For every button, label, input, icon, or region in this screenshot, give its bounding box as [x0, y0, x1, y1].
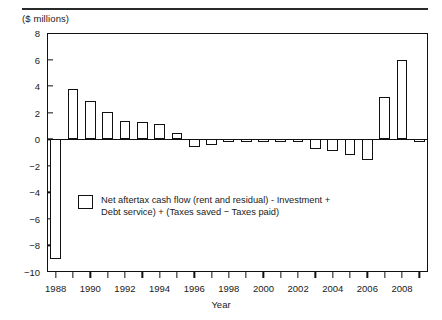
- x-tick-mark: [384, 272, 385, 278]
- x-tick-mark: [280, 272, 281, 278]
- legend-swatch-icon: [78, 195, 93, 209]
- x-tick-label: 1996: [184, 283, 205, 294]
- x-axis-title: Year: [0, 299, 442, 310]
- y-tick-label: −4: [14, 187, 40, 198]
- x-tick-mark: [194, 272, 195, 278]
- bar: [223, 139, 234, 141]
- bar: [137, 122, 148, 139]
- x-tick-label: 2006: [357, 283, 378, 294]
- bar: [327, 139, 338, 150]
- y-tick-label: −2: [14, 160, 40, 171]
- x-tick-label: 2000: [253, 283, 274, 294]
- bar: [345, 139, 356, 155]
- y-tick-mark: [47, 85, 53, 86]
- x-tick-mark: [419, 272, 420, 278]
- x-tick-mark: [228, 272, 229, 278]
- x-tick-mark: [315, 272, 316, 278]
- x-tick-mark: [349, 272, 350, 278]
- bar: [293, 139, 304, 141]
- y-tick-mark: [47, 112, 53, 113]
- x-tick-label: 1988: [45, 283, 66, 294]
- y-tick-label: −10: [14, 267, 40, 278]
- y-tick-label: 4: [14, 81, 40, 92]
- bar: [258, 139, 269, 141]
- x-tick-label: 1992: [114, 283, 135, 294]
- x-tick-mark: [72, 272, 73, 278]
- bar: [172, 133, 183, 140]
- bar: [68, 89, 79, 139]
- x-tick-mark: [107, 272, 108, 278]
- bar: [154, 124, 165, 139]
- x-tick-mark: [211, 272, 212, 278]
- legend-label: Net aftertax cash flow (rent and residua…: [101, 194, 330, 218]
- x-tick-mark: [367, 272, 368, 278]
- y-tick-label: 8: [14, 28, 40, 39]
- x-tick-label: 2008: [391, 283, 412, 294]
- bar: [85, 101, 96, 139]
- y-tick-label: 2: [14, 107, 40, 118]
- x-tick-mark: [246, 272, 247, 278]
- bar: [397, 60, 408, 140]
- bar: [362, 139, 373, 160]
- bar: [310, 139, 321, 149]
- x-tick-mark: [263, 272, 264, 278]
- x-tick-mark: [159, 272, 160, 278]
- chart-figure: ($ millions) 86420−2−4−6−8−10 1988199019…: [0, 0, 442, 320]
- x-tick-mark: [55, 272, 56, 278]
- bar: [189, 139, 200, 146]
- x-tick-mark: [332, 272, 333, 278]
- x-tick-label: 1994: [149, 283, 170, 294]
- x-tick-mark: [401, 272, 402, 278]
- x-tick-mark: [142, 272, 143, 278]
- x-tick-label: 1998: [218, 283, 239, 294]
- legend: Net aftertax cash flow (rent and residua…: [78, 194, 330, 218]
- y-tick-label: 0: [14, 134, 40, 145]
- x-tick-mark: [176, 272, 177, 278]
- bar: [414, 139, 425, 141]
- bar: [275, 139, 286, 141]
- header-rule: [22, 8, 428, 10]
- x-tick-label: 2002: [288, 283, 309, 294]
- y-tick-label: −8: [14, 240, 40, 251]
- bar: [102, 112, 113, 139]
- x-tick-label: 1990: [80, 283, 101, 294]
- x-tick-label: 2004: [322, 283, 343, 294]
- y-tick-label: −6: [14, 213, 40, 224]
- y-tick-mark: [47, 59, 53, 60]
- x-tick-mark: [297, 272, 298, 278]
- bar: [206, 139, 217, 144]
- bar: [379, 97, 390, 139]
- y-tick-label: 6: [14, 54, 40, 65]
- y-axis-unit-label: ($ millions): [22, 13, 69, 24]
- bar: [120, 121, 131, 140]
- x-tick-mark: [124, 272, 125, 278]
- bar: [50, 139, 61, 259]
- x-tick-mark: [90, 272, 91, 278]
- bar: [241, 139, 252, 141]
